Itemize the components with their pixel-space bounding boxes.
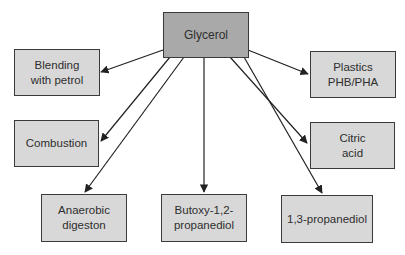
node-label: Blending with petrol [31, 58, 83, 88]
node-butoxy-propanediol: Butoxy-1,2- propanediol [161, 194, 247, 242]
arrow-to-plastics [248, 50, 308, 74]
node-label: 1,3-propanediol [287, 212, 367, 227]
node-glycerol: Glycerol [163, 12, 249, 58]
node-label: Citric acid [339, 131, 365, 161]
node-blending-with-petrol: Blending with petrol [14, 49, 100, 96]
node-combustion: Combustion [14, 120, 99, 167]
node-label: Glycerol [184, 28, 228, 43]
node-label: Anaerobic digeston [58, 203, 110, 233]
node-label: Combustion [26, 136, 87, 151]
arrow-to-combustion [101, 57, 170, 141]
node-plastics-phb-pha: Plastics PHB/PHA [310, 51, 396, 98]
node-label: Butoxy-1,2- propanediol [174, 203, 234, 233]
node-label: Plastics PHB/PHA [328, 60, 379, 90]
node-1-3-propanediol: 1,3-propanediol [281, 195, 373, 243]
arrow-to-citric [230, 57, 307, 143]
arrow-to-blending [101, 50, 163, 72]
node-citric-acid: Citric acid [310, 122, 395, 169]
glycerol-uses-diagram: Glycerol Blending with petrol Combustion… [0, 0, 405, 255]
node-anaerobic-digeston: Anaerobic digeston [41, 194, 127, 242]
